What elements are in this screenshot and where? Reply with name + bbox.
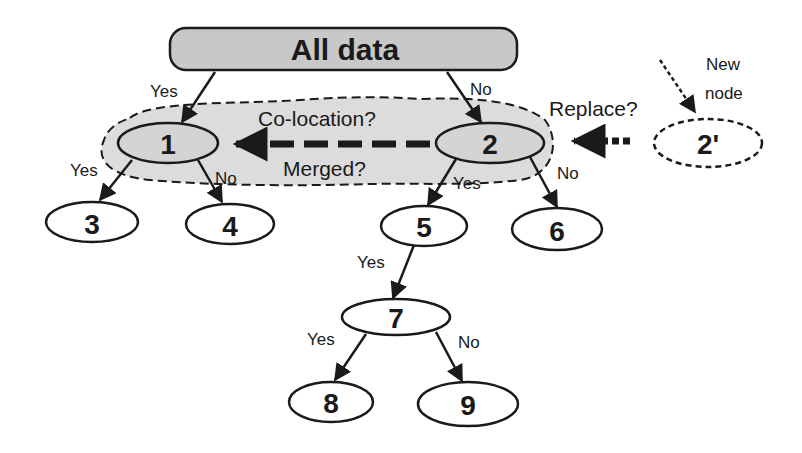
merged-label: Merged? (283, 157, 366, 180)
node-2-prime: 2' (654, 119, 762, 167)
edge-label-2-5: Yes (453, 174, 481, 193)
node-6-label: 6 (549, 216, 565, 247)
node-2-label: 2 (482, 129, 498, 160)
edge-7-8 (335, 334, 366, 380)
node-2-prime-label: 2' (697, 129, 719, 160)
new-node-label-line2: node (705, 84, 743, 103)
node-9-label: 9 (460, 390, 476, 421)
node-5-label: 5 (416, 212, 432, 243)
edge-label-7-9: No (458, 333, 480, 352)
node-7-label: 7 (388, 303, 404, 334)
node-3-label: 3 (84, 209, 100, 240)
root-label: All data (291, 33, 400, 66)
node-2: 2 (436, 123, 544, 163)
replace-label: Replace? (549, 97, 638, 120)
edge-5-7 (393, 245, 414, 298)
node-4-label: 4 (222, 211, 238, 242)
edge-label-2-6: No (557, 164, 579, 183)
edge-label-root-2: No (470, 80, 492, 99)
edge-label-root-1: Yes (150, 82, 178, 101)
node-1-label: 1 (160, 129, 176, 160)
node-1: 1 (118, 123, 218, 163)
node-3: 3 (46, 202, 138, 242)
node-4: 4 (186, 204, 274, 244)
node-5: 5 (381, 206, 467, 246)
new-node-arrow (660, 60, 695, 112)
edge-label-1-3: Yes (70, 161, 98, 180)
decision-tree-diagram: All data 1 2 3 4 5 6 (0, 0, 802, 453)
edge-label-5-7: Yes (357, 253, 385, 272)
root-node: All data (170, 28, 517, 70)
edge-label-1-4: No (215, 169, 237, 188)
node-9: 9 (418, 382, 518, 426)
new-node-label-line1: New (706, 55, 741, 74)
node-8-label: 8 (323, 388, 339, 419)
colocation-label: Co-location? (258, 107, 376, 130)
node-6: 6 (512, 208, 602, 250)
edge-label-7-8: Yes (307, 330, 335, 349)
node-7: 7 (342, 299, 450, 335)
node-8: 8 (289, 382, 373, 422)
